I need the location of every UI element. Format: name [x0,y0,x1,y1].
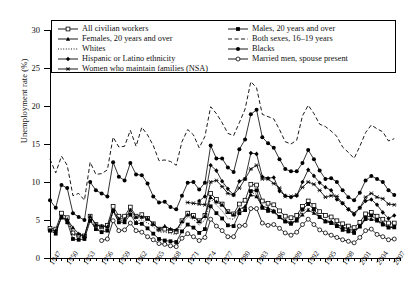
legend-symbol-line-open-circle [227,54,249,64]
legend-symbol-line-open-square [57,24,79,34]
legend-item-label: All civilian workers [82,24,148,34]
legend-item-label: Females, 20 years and over [82,34,173,44]
legend-item-label: Hispanic or Latino ethnicity [82,54,175,64]
legend-item-label: Both sexes, 16–19 years [252,34,333,44]
legend-symbol-line-filled-square [227,24,249,34]
legend-item-label: Married men, spouse present [252,54,348,64]
legend-item: All civilian workers [57,24,148,34]
legend-item-label: Blacks [252,44,275,54]
series-males-20-years-and-over [48,188,396,243]
legend-item: Married men, spouse present [227,54,348,64]
chart-figure: Unemployment rate (%) 051015202530 19471… [0,0,412,293]
legend-symbol-line-filled-circle [227,44,249,54]
legend-item: Females, 20 years and over [57,34,173,44]
legend-item-label: Whites [82,44,106,54]
legend-item: Hispanic or Latino ethnicity [57,54,175,64]
legend-item-label: Women who maintain families (NSA) [82,64,208,74]
legend-symbol-dashed-line [227,34,249,44]
legend-symbol-dotted-line [57,44,79,54]
legend-item: Whites [57,44,106,54]
legend-symbol-line-filled-triangle [57,34,79,44]
legend-item: Both sexes, 16–19 years [227,34,333,44]
legend-item: Males, 20 years and over [227,24,335,34]
legend-item: Women who maintain families (NSA) [57,64,208,74]
legend-box: All civilian workersFemales, 20 years an… [51,20,396,73]
legend-item: Blacks [227,44,275,54]
legend-item-label: Males, 20 years and over [252,24,335,34]
legend-symbol-line-asterisk [57,64,79,74]
legend-symbol-line-filled-diamond [57,54,79,64]
